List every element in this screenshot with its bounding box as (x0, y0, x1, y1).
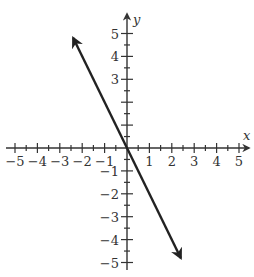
y-tick-label: −4 (100, 233, 119, 248)
x-tick-label: −2 (73, 154, 92, 169)
y-tick-label: 3 (111, 72, 119, 87)
x-tick-label: 1 (145, 154, 153, 169)
x-axis-label: x (243, 128, 251, 143)
coordinate-plane: −5−4−3−2−112345543−1−2−3−4−5 x y (0, 0, 254, 277)
x-tick-label: 4 (212, 154, 220, 169)
x-tick-label: −5 (5, 154, 24, 169)
x-tick-label: 3 (190, 154, 198, 169)
y-tick-label: 5 (111, 27, 119, 42)
y-tick-label: 4 (111, 49, 119, 64)
y-tick-label: −1 (100, 164, 119, 179)
x-tick-label: 2 (168, 154, 176, 169)
y-tick-label: −3 (100, 210, 119, 225)
x-tick-label: −4 (28, 154, 47, 169)
y-axis-label: y (132, 12, 141, 27)
x-tick-label: 5 (235, 154, 243, 169)
y-tick-label: −5 (100, 256, 119, 271)
x-tick-label: −3 (50, 154, 69, 169)
y-tick-label: −2 (100, 187, 119, 202)
